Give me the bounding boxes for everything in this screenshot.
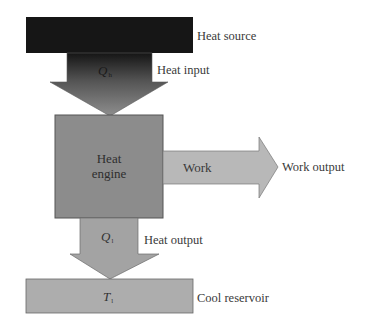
heat-output-arrow — [70, 218, 159, 279]
heat-input-symbol-subscript: h — [108, 71, 112, 79]
cool-reservoir-symbol-subscript: l — [111, 297, 113, 305]
work-output-label: Work output — [282, 161, 345, 174]
heat-source-label: Heat source — [197, 30, 256, 43]
work-inner-label: Work — [183, 161, 212, 176]
heat-output-symbol: Ql — [101, 230, 113, 245]
cool-reservoir-symbol-main: T — [103, 289, 110, 304]
heat-output-symbol-subscript: l — [111, 237, 113, 245]
heat-engine-label-line2: engine — [55, 167, 163, 182]
work-arrow — [163, 137, 278, 198]
heat-output-symbol-main: Q — [101, 229, 110, 244]
heat-input-symbol: Qh — [98, 64, 112, 79]
cool-reservoir-label: Cool reservoir — [197, 292, 269, 305]
heat-output-label: Heat output — [144, 234, 203, 247]
heat-input-arrow — [50, 53, 168, 116]
cool-reservoir-symbol: Tl — [103, 290, 113, 305]
heat-input-label: Heat input — [157, 64, 209, 77]
heat-source-box — [26, 17, 193, 53]
heat-engine-label: Heat engine — [55, 152, 163, 182]
heat-engine-label-line1: Heat — [55, 152, 163, 167]
heat-input-symbol-main: Q — [98, 63, 107, 78]
